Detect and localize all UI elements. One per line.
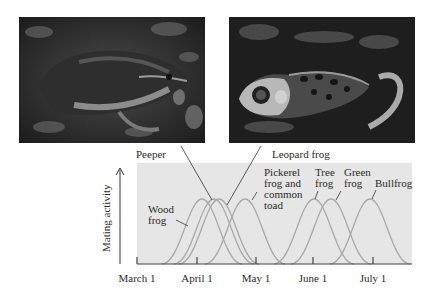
y-axis: Mating activity bbox=[100, 168, 124, 264]
label-pickerel-4: toad bbox=[264, 199, 283, 211]
label-tree-frog-2: frog bbox=[315, 177, 334, 189]
label-green-frog-2: frog bbox=[344, 177, 363, 189]
label-leopard-frog: Leopard frog bbox=[272, 148, 330, 160]
label-bullfrog: Bullfrog bbox=[375, 177, 413, 189]
svg-text:June 1: June 1 bbox=[299, 272, 327, 284]
svg-text:May 1: May 1 bbox=[242, 272, 270, 284]
y-axis-label: Mating activity bbox=[100, 184, 112, 252]
label-peeper: Peeper bbox=[136, 148, 166, 160]
x-tick-labels: March 1 April 1 May 1 June 1 July 1 bbox=[119, 272, 387, 284]
label-wood-frog-2: frog bbox=[148, 214, 167, 226]
svg-text:July 1: July 1 bbox=[360, 272, 387, 284]
mating-activity-chart: Mating activity March 1 April 1 May 1 Ju… bbox=[0, 0, 437, 293]
svg-text:March 1: March 1 bbox=[119, 272, 156, 284]
svg-text:April 1: April 1 bbox=[181, 272, 212, 284]
